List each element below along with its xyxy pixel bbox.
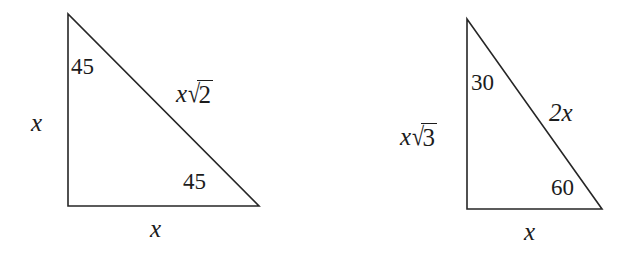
triangle-45-45-90-hypotenuse-label: x√2 [176,80,213,107]
triangle-30-60-90-hypotenuse-label: 2x [549,100,573,125]
square-root-icon: √2 [187,80,213,107]
triangle-45-45-90-shape [68,14,259,206]
triangle-30-60-90-shape [467,19,602,209]
triangle-30-60-90-left-leg-label: x√3 [400,123,437,150]
triangle-45-45-90-bottom-leg-label: x [150,216,161,241]
triangle-45-45-90-bottom-angle-label: 45 [183,170,206,193]
triangle-30-60-90-top-angle-label: 30 [471,71,494,94]
left-leg-coefficient: x [400,124,411,150]
radical-sign: √ [412,124,424,150]
triangles-canvas [0,0,624,253]
square-root-icon: √3 [411,123,437,150]
triangle-30-60-90-outline [467,19,602,209]
triangle-30-60-90-bottom-leg-label: x [524,219,535,244]
triangle-45-45-90-top-angle-label: 45 [71,55,94,78]
triangle-45-45-90-left-leg-label: x [31,110,42,135]
radical-sign: √ [188,81,200,107]
special-right-triangles-figure: 45 x√2 x 45 x 30 2x x√3 60 x [0,0,624,253]
triangle-45-45-90-outline [68,14,259,206]
triangle-30-60-90-bottom-angle-label: 60 [551,176,574,199]
hypotenuse-coefficient: x [176,81,187,107]
